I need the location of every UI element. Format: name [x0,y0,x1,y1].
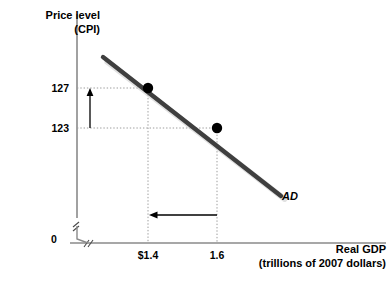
x-axis-title-line1: Real GDP [336,243,386,255]
x-tick-label-1-4: $1.4 [126,249,170,261]
axis-corner-connector [77,226,88,243]
x-tick-label-1-6: 1.6 [195,249,239,261]
real-gdp-decrease-arrow-icon [149,212,217,219]
y-tick-label-123: 123 [29,122,69,134]
y-axis-title-line2: (CPI) [8,22,100,36]
ad-curve-label: AD [282,190,298,202]
y-tick-label-127: 127 [29,82,69,94]
ad-curve-figure: Price level (CPI) Real GDP (trillions of… [0,0,392,285]
origin-label: 0 [51,233,57,245]
y-axis-title: Price level (CPI) [8,8,100,36]
price-level-increase-arrow-icon [87,88,94,128]
equilibrium-point-high [143,83,153,93]
y-axis-title-line1: Price level [46,9,100,21]
equilibrium-point-low [212,123,222,133]
y-axis-break-icon [73,222,79,231]
ad-curve [103,57,281,196]
